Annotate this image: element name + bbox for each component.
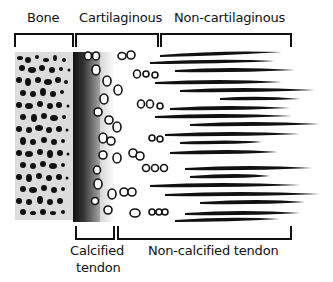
label-calcified-line2: tendon bbox=[76, 260, 121, 275]
label-non-calcified-tendon: Non-calcified tendon bbox=[148, 243, 278, 258]
top-brackets bbox=[15, 34, 291, 47]
tendon-fibres bbox=[150, 51, 320, 222]
label-calcified-line1: Calcified bbox=[70, 243, 124, 258]
bottom-brackets bbox=[76, 226, 291, 239]
bone-region bbox=[15, 52, 73, 220]
enthesis-illustration bbox=[0, 0, 333, 282]
